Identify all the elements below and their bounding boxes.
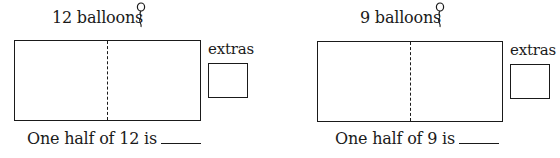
answer-blank[interactable] bbox=[459, 129, 499, 144]
balloon-icon bbox=[434, 2, 446, 28]
extras-label: extras bbox=[510, 41, 556, 59]
extras-box bbox=[510, 64, 550, 99]
problem-9-balloons: 9 balloons extras One half of 9 is bbox=[0, 0, 560, 158]
question-label: One half of 9 is bbox=[335, 129, 455, 148]
half-divider bbox=[410, 42, 411, 121]
question-text: One half of 9 is bbox=[335, 129, 499, 148]
problem-title: 9 balloons bbox=[360, 8, 441, 27]
halves-box bbox=[317, 41, 503, 122]
